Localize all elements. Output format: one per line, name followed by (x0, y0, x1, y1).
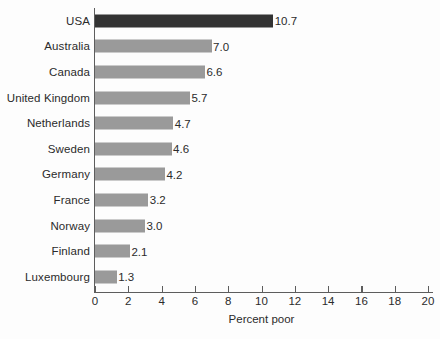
bar: 4.7 (95, 117, 173, 130)
chart-row: Germany 4.2 (0, 162, 440, 188)
bar-value-label: 4.7 (175, 117, 191, 129)
category-label: USA (66, 15, 90, 27)
x-axis-tick-label: 12 (288, 295, 301, 307)
x-axis-tick-label: 18 (388, 295, 401, 307)
x-axis-tick (361, 286, 362, 292)
chart-row: Norway 3.0 (0, 213, 440, 239)
chart-row: United Kingdom 5.7 (0, 85, 440, 111)
bar: 7.0 (95, 40, 212, 53)
bar-track: 10.7 (95, 14, 273, 27)
chart-row: France 3.2 (0, 187, 440, 213)
bar-rows: USA 10.7 Australia 7.0 Canada (0, 8, 440, 290)
x-axis-tick-label: 20 (422, 295, 435, 307)
x-axis-title-text: Percent poor (229, 313, 295, 325)
x-axis-tick (228, 286, 229, 292)
category-label: Canada (49, 66, 90, 78)
x-axis-tick (395, 286, 396, 292)
category-label: Sweden (48, 143, 90, 155)
x-axis-tick (428, 286, 429, 292)
bar-track: 4.7 (95, 117, 173, 130)
chart-row: Finland 2.1 (0, 238, 440, 264)
bar-track: 6.6 (95, 65, 205, 78)
category-label: Luxembourg (25, 271, 90, 283)
bar-track: 3.0 (95, 219, 145, 232)
bar: 4.6 (95, 142, 172, 155)
bar-value-label: 4.2 (166, 168, 182, 180)
chart-row: USA 10.7 (0, 8, 440, 34)
bar-track: 4.2 (95, 168, 165, 181)
x-axis-title: Percent poor (95, 313, 428, 325)
bar-value-label: 2.1 (131, 245, 147, 257)
bar-value-label: 1.3 (118, 271, 134, 283)
x-axis-tick-label: 14 (322, 295, 335, 307)
bar-value-label: 7.0 (213, 40, 229, 52)
bar-track: 2.1 (95, 245, 130, 258)
bar-track: 7.0 (95, 40, 212, 53)
chart-row: Australia 7.0 (0, 34, 440, 60)
x-axis-tick-label: 0 (92, 295, 98, 307)
x-axis-tick (195, 286, 196, 292)
category-label: United Kingdom (7, 92, 90, 104)
bar-value-label: 4.6 (173, 143, 189, 155)
bar-track: 3.2 (95, 193, 148, 206)
chart-row: Netherlands 4.7 (0, 110, 440, 136)
category-label: Finland (52, 245, 90, 257)
plot-area: USA 10.7 Australia 7.0 Canada (0, 0, 440, 339)
bar-track: 4.6 (95, 142, 172, 155)
bar: 5.7 (95, 91, 190, 104)
category-label: Australia (44, 40, 90, 52)
category-label: Germany (42, 168, 90, 180)
x-axis-tick (128, 286, 129, 292)
chart-row: Luxembourg 1.3 (0, 264, 440, 290)
bar: 3.2 (95, 193, 148, 206)
bar: 10.7 (95, 14, 273, 27)
x-axis-tick (262, 286, 263, 292)
category-label: Norway (50, 220, 90, 232)
x-axis-tick-label: 4 (158, 295, 164, 307)
x-axis-tick-label: 2 (125, 295, 131, 307)
x-axis-tick (162, 286, 163, 292)
x-axis-tick (95, 286, 96, 292)
x-axis-line (94, 292, 433, 293)
bar: 3.0 (95, 219, 145, 232)
bar-value-label: 3.0 (146, 220, 162, 232)
x-axis-tick-label: 8 (225, 295, 231, 307)
bar: 6.6 (95, 65, 205, 78)
chart-row: Canada 6.6 (0, 59, 440, 85)
bar-value-label: 5.7 (191, 92, 207, 104)
x-axis-tick-label: 6 (192, 295, 198, 307)
bar-chart: USA 10.7 Australia 7.0 Canada (0, 0, 440, 339)
x-axis-tick-label: 10 (255, 295, 268, 307)
x-axis-tick (328, 286, 329, 292)
category-label: Netherlands (27, 117, 90, 129)
x-axis-tick-label: 16 (355, 295, 368, 307)
x-axis-tick (295, 286, 296, 292)
bar: 2.1 (95, 245, 130, 258)
bar-value-label: 3.2 (150, 194, 166, 206)
bar: 4.2 (95, 168, 165, 181)
bar-value-label: 6.6 (206, 66, 222, 78)
bar-value-label: 10.7 (275, 15, 297, 27)
bar: 1.3 (95, 270, 117, 283)
bar-track: 1.3 (95, 270, 117, 283)
chart-row: Sweden 4.6 (0, 136, 440, 162)
bar-track: 5.7 (95, 91, 190, 104)
category-label: France (54, 194, 90, 206)
